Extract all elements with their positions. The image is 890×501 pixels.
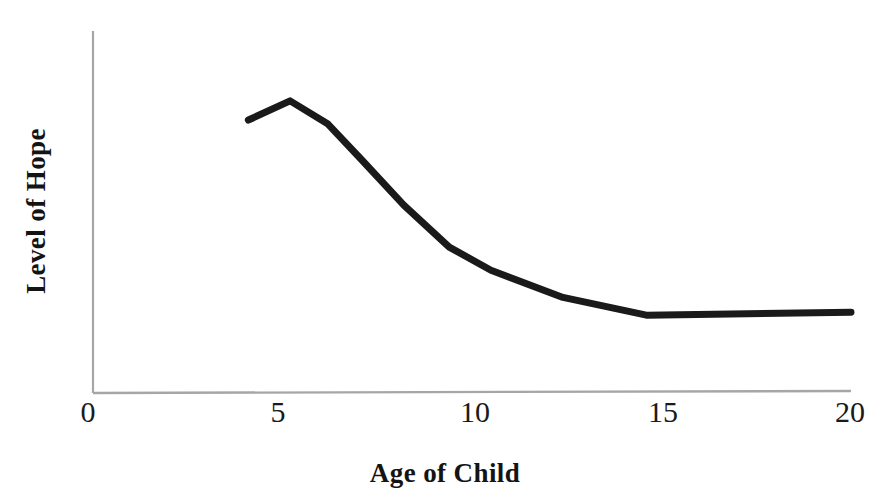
x-tick-label-0: 0 [81,397,96,427]
x-tick-label-20: 20 [835,397,865,427]
x-axis-title: Age of Child [0,458,890,489]
data-line-level-of-hope [248,101,851,315]
y-axis-title: Level of Hope [0,187,161,235]
line-chart-plot [0,0,890,501]
axis-lines [93,31,851,393]
x-axis-line [93,391,851,393]
x-tick-label-15: 15 [648,397,678,427]
chart-figure: 0 5 10 15 20 Age of Child Level of Hope [0,0,890,501]
x-tick-label-10: 10 [460,397,490,427]
data-series-group [248,101,851,315]
x-tick-label-5: 5 [271,397,286,427]
